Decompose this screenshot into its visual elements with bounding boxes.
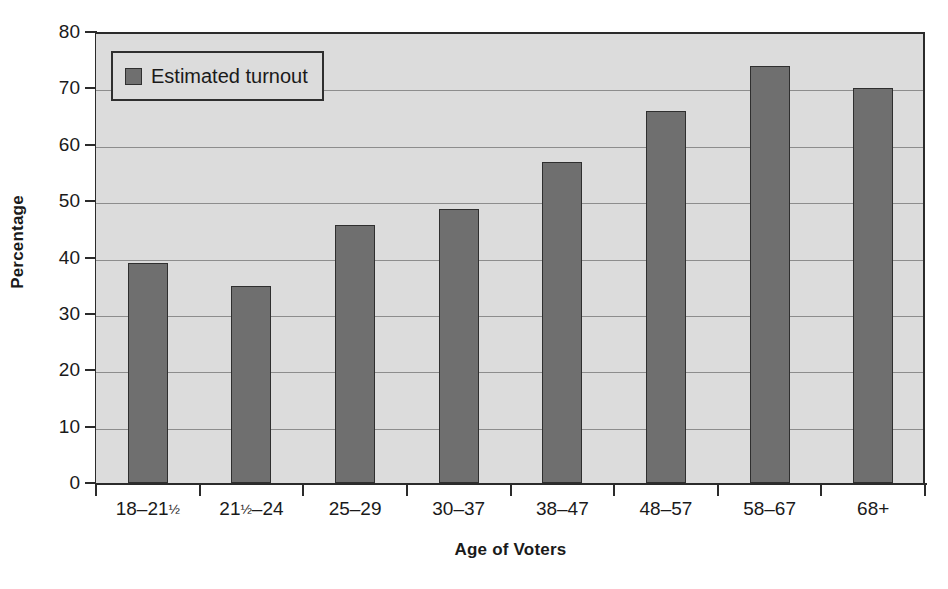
x-axis-title: Age of Voters xyxy=(96,540,925,560)
chart-legend: Estimated turnout xyxy=(111,51,324,101)
bar-chart: Percentage 01020304050607080 18–21½21½–2… xyxy=(0,0,948,589)
legend-label-estimated-turnout: Estimated turnout xyxy=(151,65,308,88)
y-axis-tick-label: 20 xyxy=(59,359,80,381)
y-axis-tick-label: 70 xyxy=(59,77,80,99)
y-axis-tick-label: 40 xyxy=(59,247,80,269)
bars-layer xyxy=(96,34,923,483)
x-axis-tick-label: 18–21½ xyxy=(96,498,200,520)
bar-25–29 xyxy=(335,225,375,483)
bar-18–21½ xyxy=(128,263,168,483)
y-axis-tick-label: 60 xyxy=(59,134,80,156)
x-axis-tick-label: 25–29 xyxy=(303,498,407,520)
bar-38–47 xyxy=(542,162,582,483)
bar-58–67 xyxy=(750,66,790,483)
x-axis-tick-mark xyxy=(924,485,926,496)
x-axis-tick-label: 68+ xyxy=(821,498,925,520)
x-axis-tick-labels: 18–21½21½–2425–2930–3738–4748–5758–6768+ xyxy=(96,498,925,532)
x-axis-tick-mark xyxy=(406,485,408,496)
bar-48–57 xyxy=(646,111,686,483)
bar-30–37 xyxy=(439,209,479,483)
y-axis-tick-label: 0 xyxy=(69,472,80,494)
x-axis-tick-label: 48–57 xyxy=(614,498,718,520)
x-axis-tick-mark xyxy=(717,485,719,496)
bar-68+ xyxy=(853,88,893,483)
x-axis-tick-label: 30–37 xyxy=(407,498,511,520)
fraction-glyph: ½ xyxy=(169,502,180,517)
y-axis-tick-labels: 01020304050607080 xyxy=(36,32,84,483)
y-axis-tick-label: 50 xyxy=(59,190,80,212)
x-axis-tick-mark xyxy=(302,485,304,496)
y-axis-tick-label: 10 xyxy=(59,416,80,438)
legend-swatch-estimated-turnout xyxy=(125,68,142,85)
x-axis-tick-label: 21½–24 xyxy=(200,498,304,520)
fraction-glyph: ½ xyxy=(240,502,251,517)
x-axis-tick-mark xyxy=(95,485,97,496)
x-axis-tick-mark xyxy=(613,485,615,496)
x-axis-tick-label: 38–47 xyxy=(511,498,615,520)
x-axis-tick-mark xyxy=(510,485,512,496)
y-axis-title-text: Percentage xyxy=(8,195,28,289)
y-axis-title: Percentage xyxy=(0,0,36,483)
x-axis-tick-label: 58–67 xyxy=(718,498,822,520)
y-axis-tick-label: 80 xyxy=(59,21,80,43)
x-axis-tick-mark xyxy=(820,485,822,496)
y-axis-tick-label: 30 xyxy=(59,303,80,325)
x-axis-tick-mark xyxy=(199,485,201,496)
bar-21½–24 xyxy=(231,286,271,483)
